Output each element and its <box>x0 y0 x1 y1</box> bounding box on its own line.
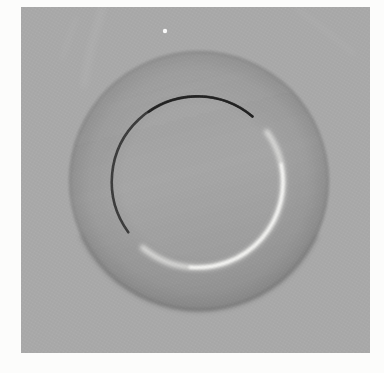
plate-photograph: Grayscale halftone photograph of a round… <box>0 0 384 373</box>
halftone-texture <box>21 7 370 353</box>
scanned-photo-page: Grayscale halftone photograph of a round… <box>0 0 384 373</box>
